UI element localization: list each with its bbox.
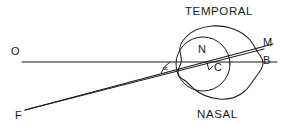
point-label-n: N [198, 43, 206, 55]
point-label-f: F [15, 109, 22, 121]
secondary-ray-line [25, 49, 264, 110]
angle-alpha-label: ∝ [162, 63, 168, 73]
angle-tick-at-center [207, 63, 213, 70]
nasal-label: NASAL [197, 108, 238, 120]
diagram-canvas: B ===== --> M ===== --> TEMPORAL NASAL O… [0, 0, 289, 135]
temporal-label: TEMPORAL [185, 5, 253, 17]
eye-angle-diagram: B ===== --> M ===== --> TEMPORAL NASAL O… [0, 0, 289, 135]
point-label-o: O [11, 45, 20, 57]
point-label-c: C [214, 61, 222, 73]
point-label-m: M [263, 36, 272, 48]
point-label-b: B [263, 54, 270, 66]
